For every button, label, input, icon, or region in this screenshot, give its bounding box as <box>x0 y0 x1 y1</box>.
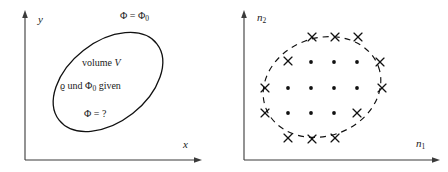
volume-label: volume V <box>82 58 121 68</box>
lattice-dot <box>309 86 313 90</box>
cross-mark <box>353 109 361 117</box>
cross-mark <box>284 134 292 142</box>
interior-lattice-points <box>286 60 359 115</box>
cross-mark <box>308 135 316 143</box>
lattice-dot <box>332 86 336 90</box>
n2-axis-label-sub: 2 <box>263 16 267 25</box>
n2-axis-label: n2 <box>257 12 266 24</box>
given-data-label-tail: given <box>96 80 121 91</box>
y-axis-arrowhead <box>22 10 28 18</box>
volume-label-text: volume <box>82 57 115 68</box>
lattice-dot <box>355 86 359 90</box>
lattice-dot <box>332 60 336 64</box>
given-data-label-main: ϱ und Φ <box>60 80 92 91</box>
lattice-dot <box>286 111 290 115</box>
boundary-potential-label-sub: 0 <box>145 14 149 23</box>
lattice-boundary-curve <box>249 20 395 153</box>
continuum-domain-panel: y x Φ = Φ0 volume V ϱ und Φ0 given Φ = ? <box>0 0 224 172</box>
y-axis-label: y <box>38 14 43 25</box>
cross-mark <box>354 33 362 41</box>
n2-axis-arrowhead <box>241 10 247 18</box>
x-axis-label: x <box>183 139 188 150</box>
cross-mark <box>331 134 339 142</box>
lattice-dot <box>309 111 313 115</box>
cross-mark <box>261 84 269 92</box>
cross-mark <box>284 57 292 65</box>
given-data-label: ϱ und Φ0 given <box>60 81 121 92</box>
boundary-potential-label-main: Φ = Φ <box>120 10 145 21</box>
cross-mark <box>376 58 384 66</box>
n1-axis-label: n1 <box>416 138 425 150</box>
cross-mark <box>308 33 316 41</box>
lattice-dot <box>355 60 359 64</box>
boundary-potential-label: Φ = Φ0 <box>120 11 149 22</box>
unknown-potential-label: Φ = ? <box>84 109 106 119</box>
lattice-dot <box>286 86 290 90</box>
n1-axis-arrowhead <box>432 157 440 163</box>
volume-symbol: V <box>115 57 121 68</box>
discrete-lattice-panel: n2 n1 <box>224 0 448 172</box>
lattice-dot <box>309 60 313 64</box>
right-panel-canvas <box>224 0 448 172</box>
cross-mark <box>378 84 386 92</box>
figure-root: y x Φ = Φ0 volume V ϱ und Φ0 given Φ = ? <box>0 0 448 172</box>
lattice-dot <box>332 111 336 115</box>
n1-axis-label-sub: 1 <box>422 142 426 151</box>
x-axis-arrowhead <box>194 157 202 163</box>
